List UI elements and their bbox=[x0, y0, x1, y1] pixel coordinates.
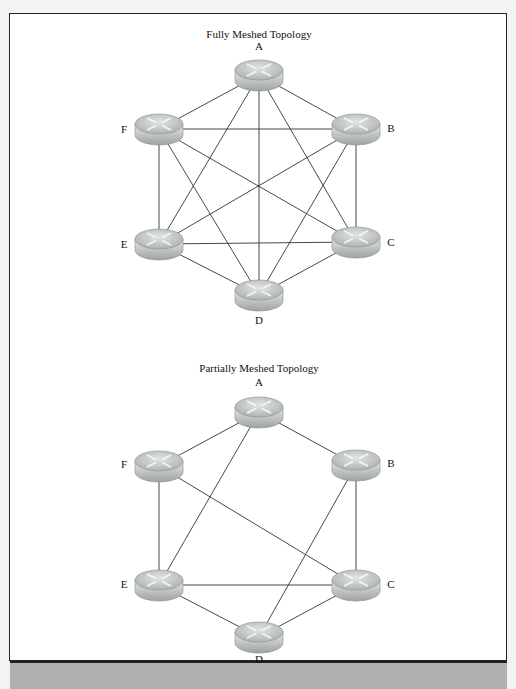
router-C bbox=[332, 570, 380, 601]
node-label-B: B bbox=[387, 457, 394, 469]
link-B-D bbox=[259, 129, 356, 295]
router-E bbox=[135, 570, 183, 601]
router-B bbox=[332, 114, 380, 145]
router-E bbox=[135, 229, 183, 260]
node-label-D: D bbox=[255, 314, 263, 326]
partially-meshed-diagram: ABCDEF bbox=[121, 376, 395, 665]
fully-meshed-title: Fully Meshed Topology bbox=[206, 28, 312, 40]
router-A bbox=[235, 60, 283, 91]
router-F bbox=[135, 451, 183, 482]
link-A-C bbox=[259, 75, 356, 242]
node-label-C: C bbox=[387, 578, 394, 590]
node-label-A: A bbox=[255, 40, 263, 52]
router-D bbox=[235, 622, 283, 653]
node-label-F: F bbox=[121, 458, 127, 470]
link-A-E bbox=[159, 412, 259, 585]
fully-meshed-diagram: ABCDEF bbox=[121, 40, 395, 326]
router-F bbox=[135, 114, 183, 145]
node-label-A: A bbox=[255, 376, 263, 388]
node-label-E: E bbox=[121, 238, 128, 250]
node-label-C: C bbox=[387, 236, 394, 248]
link-D-F bbox=[159, 129, 259, 295]
router-D bbox=[235, 280, 283, 311]
node-label-D: D bbox=[255, 653, 263, 665]
link-A-E bbox=[159, 75, 259, 244]
partially-meshed-title: Partially Meshed Topology bbox=[199, 362, 319, 374]
router-C bbox=[332, 227, 380, 258]
node-label-B: B bbox=[387, 122, 394, 134]
node-label-F: F bbox=[121, 123, 127, 135]
link-C-E bbox=[159, 242, 356, 244]
link-F-C bbox=[159, 466, 356, 585]
node-label-E: E bbox=[121, 578, 128, 590]
router-A bbox=[235, 397, 283, 428]
router-B bbox=[332, 450, 380, 481]
